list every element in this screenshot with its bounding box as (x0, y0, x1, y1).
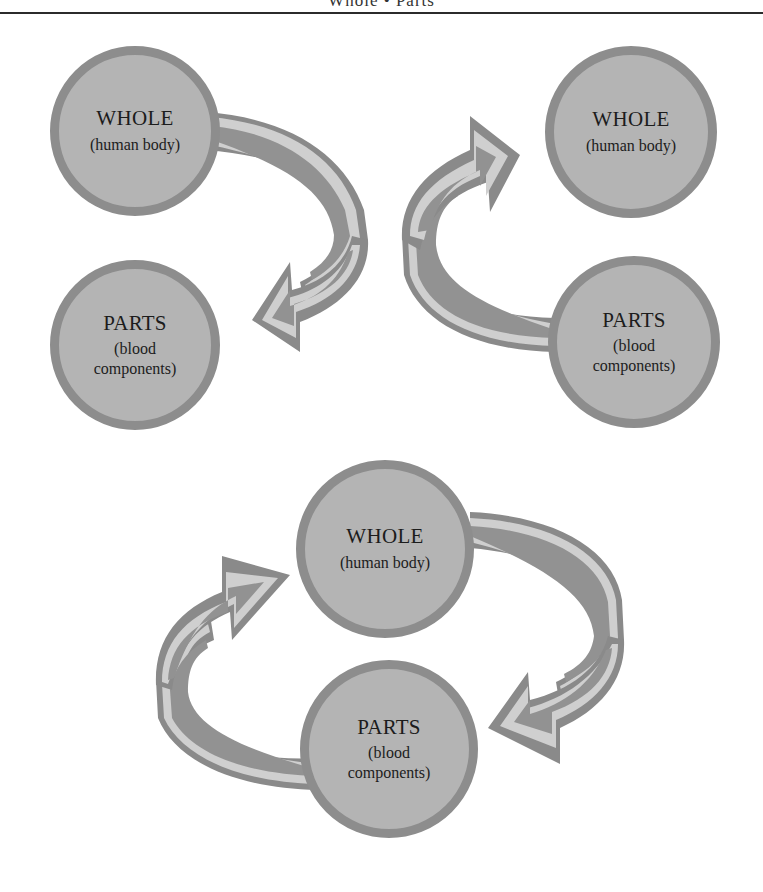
whole-sublabel: (human body) (586, 136, 676, 156)
whole-sublabel: (human body) (340, 553, 430, 573)
parts-sublabel-line2: components) (593, 356, 676, 375)
whole-label: WHOLE (592, 108, 669, 131)
parts-sublabel-line1: (blood (613, 336, 655, 356)
arrow-whole-to-parts-top-left (205, 112, 368, 352)
arrow-parts-to-whole-top-right (402, 116, 555, 352)
whole-circle-top-left: WHOLE (human body) (50, 46, 220, 216)
parts-circle-bottom: PARTS (blood components) (300, 660, 478, 838)
arrow-parts-to-whole-bottom-left (156, 556, 318, 790)
parts-circle-top-left: PARTS (blood components) (50, 260, 220, 430)
whole-circle-top-right: WHOLE (human body) (545, 46, 717, 218)
parts-sublabel-line1: (blood (114, 339, 156, 359)
parts-sublabel-line2: components) (94, 359, 177, 378)
whole-label: WHOLE (346, 525, 423, 548)
whole-circle-bottom: WHOLE (human body) (296, 460, 474, 638)
parts-label: PARTS (602, 309, 666, 332)
parts-label: PARTS (357, 716, 421, 739)
arrow-whole-to-parts-bottom-right (470, 512, 624, 764)
parts-label: PARTS (103, 312, 167, 335)
parts-circle-top-right: PARTS (blood components) (548, 256, 720, 428)
parts-sublabel-line1: (blood (368, 743, 410, 763)
whole-sublabel: (human body) (90, 135, 180, 155)
parts-sublabel-line2: components) (348, 763, 431, 782)
whole-label: WHOLE (96, 107, 173, 130)
